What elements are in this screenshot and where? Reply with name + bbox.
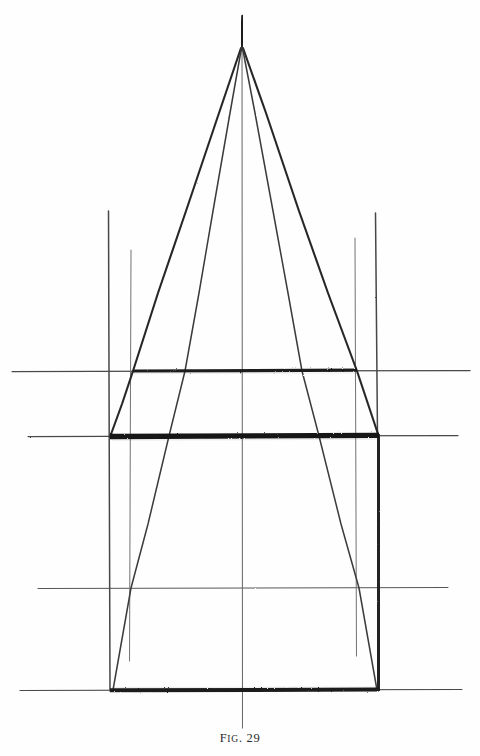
block-top-edge — [133, 370, 357, 371]
apex-tip-line — [242, 16, 243, 50]
right-outer-post-heavy-group — [378, 434, 379, 691]
caption-small-caps: IG — [227, 734, 239, 744]
figure-drawing — [0, 0, 480, 756]
center-axis-group — [242, 20, 243, 728]
paper-background — [0, 0, 480, 756]
right-outer-post-lower — [378, 434, 379, 691]
center-axis-line — [242, 20, 243, 728]
texture-streak-c — [112, 687, 378, 688]
texture-streak-a — [134, 373, 356, 374]
apex-spire — [242, 16, 243, 50]
caption-number: 29 — [247, 731, 261, 745]
caption-separator: . — [239, 731, 246, 745]
block-base-edge — [110, 690, 379, 691]
figure-page: FIG. 29 — [0, 0, 480, 756]
block-front-top-edge — [110, 435, 379, 436]
figure-caption: FIG. 29 — [0, 731, 480, 746]
